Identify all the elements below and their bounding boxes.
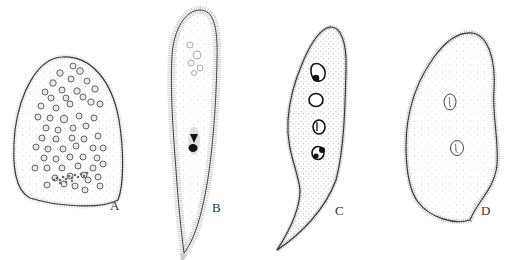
protozoa-illustration [0,0,519,260]
panel-label-d: D [481,203,490,219]
cell-a [14,57,123,206]
panel-label-b: B [212,200,221,216]
cell-b [171,10,217,253]
macronucleus-b [188,127,200,155]
panel-label-a: A [110,198,119,214]
panel-label-c: C [335,203,344,219]
cell-d [406,33,497,222]
